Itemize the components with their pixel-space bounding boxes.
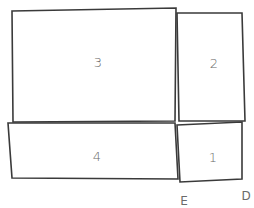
rectangle-3-label: 3	[94, 55, 102, 70]
rectangle-1-label: 1	[209, 150, 217, 165]
rectangles-diagram: 3 2 4 1 E D	[0, 0, 254, 208]
point-d-label: D	[241, 189, 250, 203]
rectangle-4-label: 4	[93, 149, 101, 164]
rectangle-2-label: 2	[210, 56, 218, 71]
point-e-label: E	[180, 194, 188, 208]
